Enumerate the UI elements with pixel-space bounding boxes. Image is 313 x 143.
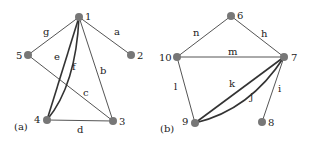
node-9 <box>191 119 199 127</box>
node-label-8: 8 <box>268 117 274 128</box>
edge-k <box>195 57 284 123</box>
node-6 <box>227 12 235 20</box>
edge-label-e: e <box>54 51 60 62</box>
edge-h <box>231 16 284 57</box>
node-2 <box>127 51 135 59</box>
edge-d <box>47 120 113 121</box>
edge-label-i: i <box>278 83 281 94</box>
node-5 <box>24 51 32 59</box>
node-3 <box>109 117 117 125</box>
node-label-9: 9 <box>182 116 188 127</box>
edge-label-l: l <box>174 81 177 92</box>
panel-b-edge-labels: h i j k l m n <box>174 27 281 102</box>
node-label-5: 5 <box>16 50 22 61</box>
panel-label-b: (b) <box>160 123 174 134</box>
node-1 <box>75 13 83 21</box>
edge-label-f: f <box>72 61 77 72</box>
node-8 <box>258 118 266 126</box>
edge-b <box>79 17 113 121</box>
node-label-3: 3 <box>119 116 125 127</box>
edge-label-k: k <box>229 78 236 89</box>
edge-label-a: a <box>114 26 120 37</box>
node-label-1: 1 <box>85 11 91 22</box>
node-4 <box>43 116 51 124</box>
node-7 <box>280 53 288 61</box>
edge-label-b: b <box>100 65 106 76</box>
edge-label-g: g <box>43 26 50 37</box>
edge-g <box>28 17 79 55</box>
node-label-2: 2 <box>137 50 143 61</box>
panel-b-nodes: 6 7 8 9 10 (b) <box>159 10 297 134</box>
node-10 <box>173 53 181 61</box>
edge-label-d: d <box>77 124 84 135</box>
graph-svg: a b c d e f g 1 2 3 4 5 (a) h i j k l <box>0 0 313 143</box>
node-label-4: 4 <box>34 114 40 125</box>
edge-a <box>79 17 131 55</box>
edge-label-n: n <box>193 27 200 38</box>
node-label-7: 7 <box>291 52 297 63</box>
edge-label-j: j <box>249 91 253 102</box>
node-label-6: 6 <box>237 10 243 21</box>
edge-label-m: m <box>228 46 238 57</box>
node-label-10: 10 <box>159 52 172 63</box>
panel-label-a: (a) <box>14 121 28 132</box>
graph-figure: a b c d e f g 1 2 3 4 5 (a) h i j k l <box>0 0 313 143</box>
edge-l <box>177 57 195 123</box>
edge-label-c: c <box>83 87 89 98</box>
edge-n <box>177 16 231 57</box>
panel-a-edge-labels: a b c d e f g <box>43 26 120 135</box>
edge-label-h: h <box>261 28 268 39</box>
